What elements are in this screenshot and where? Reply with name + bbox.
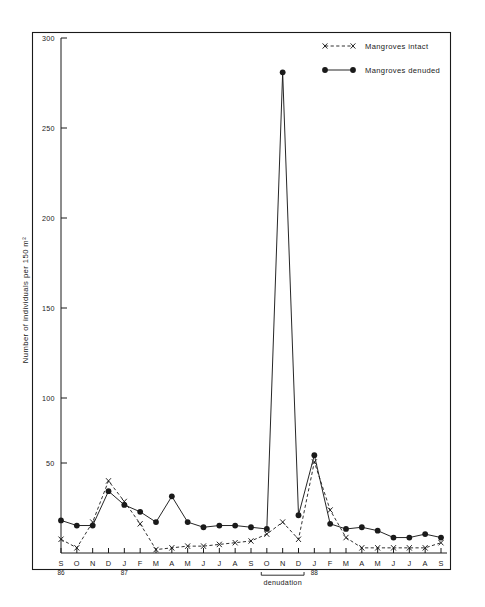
data-point-dot-marker: [90, 523, 96, 529]
data-point-dot-marker: [58, 517, 64, 523]
x-axis-year-label: 88: [311, 569, 319, 576]
y-tick-label-250: 250: [42, 124, 55, 133]
chart-background: [0, 0, 485, 607]
data-point-dot-marker: [327, 521, 333, 527]
data-point-dot-marker: [232, 523, 238, 529]
data-point-dot-marker: [74, 523, 80, 529]
data-point-dot-marker: [216, 523, 222, 529]
x-tick-label: S: [58, 559, 63, 568]
population-time-series-chart: 300 250 200 150 100 50 Number of individ…: [0, 0, 485, 607]
data-point-dot-marker: [137, 509, 143, 515]
x-tick-label: J: [217, 559, 221, 568]
data-point-dot-marker: [311, 452, 317, 458]
x-tick-label: D: [106, 559, 112, 568]
data-point-dot-marker: [106, 488, 112, 494]
x-tick-label: F: [328, 559, 333, 568]
x-tick-label: A: [423, 559, 428, 568]
data-point-dot-marker: [280, 69, 286, 75]
y-tick-label-300: 300: [42, 34, 55, 43]
figure-container: 300 250 200 150 100 50 Number of individ…: [0, 0, 485, 607]
x-tick-label: M: [153, 559, 159, 568]
x-tick-label: J: [407, 559, 411, 568]
x-tick-label: F: [138, 559, 143, 568]
x-axis-year-label: 87: [121, 569, 129, 576]
x-axis-year-label: 86: [57, 569, 65, 576]
data-point-dot-marker: [422, 531, 428, 537]
data-point-dot-marker: [201, 524, 207, 530]
x-tick-label: A: [359, 559, 364, 568]
data-point-dot-marker: [343, 526, 349, 532]
legend-label-intact: Mangroves intact: [365, 42, 429, 51]
x-tick-label: O: [264, 559, 270, 568]
y-axis-title: Number of individuals per 150 m²: [21, 237, 30, 363]
x-tick-label: M: [184, 559, 190, 568]
data-point-dot-marker: [169, 493, 175, 499]
data-point-dot-marker: [153, 519, 159, 525]
x-tick-label: A: [169, 559, 174, 568]
denudation-annotation-label: denudation: [263, 578, 302, 587]
data-point-dot-marker: [406, 535, 412, 541]
x-tick-label: S: [248, 559, 253, 568]
x-tick-label: J: [202, 559, 206, 568]
data-point-dot-marker: [375, 528, 381, 534]
data-point-dot-marker: [359, 524, 365, 530]
x-tick-label: J: [312, 559, 316, 568]
x-tick-label: J: [392, 559, 396, 568]
y-tick-label-200: 200: [42, 214, 55, 223]
data-point-dot-marker: [438, 535, 444, 541]
data-point-dot-marker: [296, 512, 302, 518]
x-tick-label: O: [74, 559, 80, 568]
y-tick-label-50: 50: [46, 459, 55, 468]
x-tick-label: M: [374, 559, 380, 568]
legend-dot-marker-icon: [322, 67, 328, 73]
x-tick-label: N: [280, 559, 286, 568]
y-tick-label-150: 150: [42, 304, 55, 313]
data-point-dot-marker: [391, 535, 397, 541]
legend-label-denuded: Mangroves denuded: [365, 66, 440, 75]
x-tick-label: N: [90, 559, 96, 568]
legend-dot-marker-icon: [350, 67, 356, 73]
data-point-dot-marker: [248, 524, 254, 530]
data-point-dot-marker: [264, 526, 270, 532]
data-point-dot-marker: [121, 502, 127, 508]
y-tick-label-100: 100: [42, 394, 55, 403]
data-point-dot-marker: [185, 519, 191, 525]
x-tick-label: M: [343, 559, 349, 568]
x-tick-label: S: [438, 559, 443, 568]
x-tick-label: A: [233, 559, 238, 568]
x-tick-label: D: [296, 559, 302, 568]
x-tick-label: J: [122, 559, 126, 568]
